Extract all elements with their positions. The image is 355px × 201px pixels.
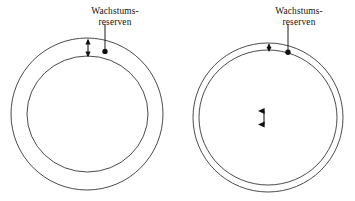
left-arrow-head-bottom xyxy=(85,51,90,57)
left-arrow-head-top xyxy=(85,38,90,44)
right-inner-circle xyxy=(199,50,337,185)
right-leader-dot xyxy=(285,50,290,55)
left-label-line-1: Wachstums- xyxy=(68,6,162,17)
left-figure-label: Wachstums- reserven xyxy=(68,6,162,29)
diagram-page: Wachstums- reserven Wachstums- reserven xyxy=(0,0,355,201)
left-outer-circle xyxy=(11,38,163,190)
right-label-line-2: reserven xyxy=(252,17,346,28)
right-figure-label: Wachstums- reserven xyxy=(252,6,346,29)
left-label-line-2: reserven xyxy=(68,17,162,28)
right-outer-circle xyxy=(193,43,343,192)
right-arrow-head-bottom xyxy=(267,47,272,52)
left-leader-dot xyxy=(102,49,107,54)
right-label-line-1: Wachstums- xyxy=(252,6,346,17)
left-figure xyxy=(11,24,264,190)
growth-reserves-diagram xyxy=(0,0,355,201)
right-figure xyxy=(193,24,343,192)
left-inner-circle xyxy=(27,56,148,172)
